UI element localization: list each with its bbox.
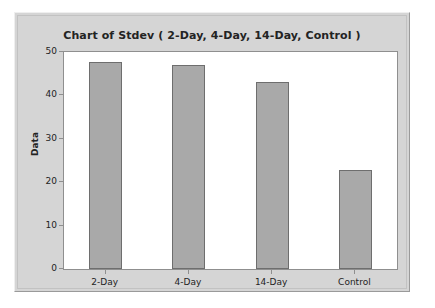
x-tick-mark xyxy=(188,270,189,274)
x-tick-label: Control xyxy=(338,277,371,287)
bar-2-day xyxy=(89,62,122,269)
x-tick-mark xyxy=(354,270,355,274)
chart-title: Chart of Stdev ( 2-Day, 4-Day, 14-Day, C… xyxy=(15,29,409,42)
x-tick-mark xyxy=(271,270,272,274)
x-tick-label: 14-Day xyxy=(255,277,287,287)
x-axis: 2-Day4-Day14-DayControl xyxy=(63,270,398,296)
bar-14-day xyxy=(256,82,289,269)
y-tick-label: 20 xyxy=(39,176,57,186)
x-tick-label: 2-Day xyxy=(91,277,118,287)
chart-panel: Chart of Stdev ( 2-Day, 4-Day, 14-Day, C… xyxy=(14,12,410,292)
y-tick-label: 50 xyxy=(39,46,57,56)
y-tick-label: 40 xyxy=(39,89,57,99)
bar-control xyxy=(339,170,372,269)
x-tick-mark xyxy=(105,270,106,274)
y-axis: 01020304050 xyxy=(37,51,63,270)
y-tick-label: 30 xyxy=(39,133,57,143)
plot-area xyxy=(63,51,398,270)
bar-4-day xyxy=(172,65,205,269)
y-tick-label: 10 xyxy=(39,220,57,230)
y-tick-label: 0 xyxy=(39,263,57,273)
x-tick-label: 4-Day xyxy=(175,277,202,287)
